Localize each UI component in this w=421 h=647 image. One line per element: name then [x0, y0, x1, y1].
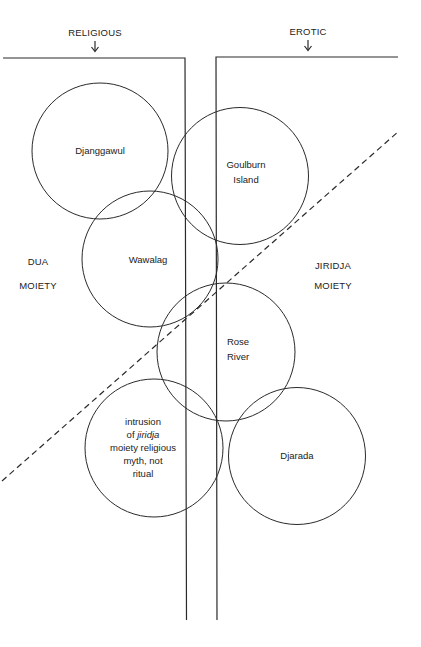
header-religious: RELIGIOUS: [68, 27, 122, 38]
circle-label: Rose: [227, 336, 249, 347]
circle-label: myth, not: [123, 455, 162, 466]
side-label-jiridja-moiety: MOIETY: [314, 280, 352, 291]
side-label-dua-moiety: MOIETY: [19, 280, 57, 291]
circle-label: Djanggawul: [75, 145, 125, 156]
circle-label: of jiridja: [127, 429, 160, 440]
circle-wawalag: Wawalag: [82, 191, 218, 327]
arrow-down-icon: [305, 40, 312, 51]
arrow-down-icon: [92, 41, 99, 52]
circle-djarada: Djarada: [229, 388, 366, 525]
circle-intrusion: intrusion of jiridja moiety religious my…: [85, 379, 223, 517]
circle-djanggawul: Djanggawul: [32, 83, 168, 219]
moiety-diagram: RELIGIOUS EROTIC Djanggawul Goulburn Isl…: [0, 0, 421, 647]
circle-label: moiety religious: [110, 442, 176, 453]
circle-label: Wawalag: [129, 254, 168, 265]
moiety-divider-line: [2, 131, 399, 481]
circle-rose-river: Rose River: [157, 283, 295, 421]
circle-label: Island: [233, 174, 258, 185]
religious-boundary: [3, 58, 187, 620]
header-erotic: EROTIC: [289, 26, 326, 37]
circle-label: Djarada: [280, 450, 314, 461]
side-label-dua: DUA: [28, 256, 49, 267]
circle-label: ritual: [133, 468, 154, 479]
circle-label: River: [227, 351, 249, 362]
side-label-jiridja: JIRIDJA: [315, 260, 352, 271]
circle-goulburn-island: Goulburn Island: [172, 108, 309, 245]
circle-label-italic: jiridja: [135, 429, 159, 440]
circle-label: Goulburn: [226, 159, 265, 170]
circle-label: intrusion: [125, 416, 161, 427]
